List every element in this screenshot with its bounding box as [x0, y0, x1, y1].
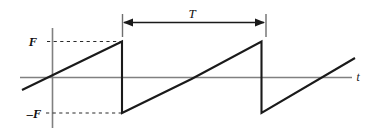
arrow-left-icon [123, 19, 133, 27]
label-amplitude-positive: F [28, 35, 38, 49]
waveform-canvas: F –F T t [0, 0, 380, 133]
sawtooth-waveform-figure: F –F T t [0, 0, 380, 133]
label-time-axis: t [356, 71, 360, 83]
label-period: T [188, 6, 196, 21]
label-amplitude-negative: –F [26, 107, 42, 121]
arrow-right-icon [255, 19, 265, 27]
